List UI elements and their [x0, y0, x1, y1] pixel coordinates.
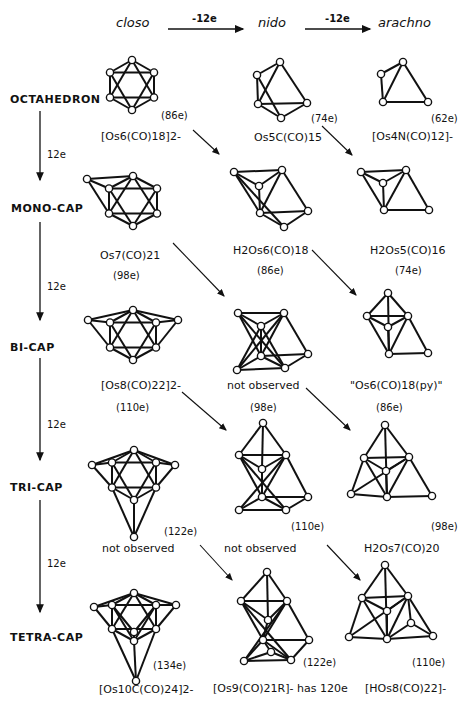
row-label-bi-cap: BI-CAP [10, 341, 55, 354]
formula-label: [Os10C(CO)24]2- [99, 683, 194, 696]
transition-label-1: -12e [192, 13, 217, 24]
electron-count: (110e) [412, 657, 445, 668]
electron-count: (98e) [113, 270, 140, 281]
formula-label: H2Os7(CO)20 [364, 542, 440, 555]
electron-count: (134e) [153, 660, 186, 671]
formula-label: Os7(CO)21 [100, 249, 160, 262]
step-label: 12e [47, 419, 66, 430]
row-label-octahedron: OCTAHEDRON [10, 93, 100, 106]
electron-count: (98e) [431, 521, 458, 532]
electron-count: (74e) [395, 265, 422, 276]
cluster-diagram: closo nido arachno -12e -12e OCTAHEDRON … [0, 0, 471, 708]
electron-count: (86e) [161, 110, 188, 121]
electron-count: (86e) [376, 402, 403, 413]
formula-label: not observed [102, 542, 175, 555]
electron-count: (122e) [303, 657, 336, 668]
formula-label: Os5C(CO)15 [254, 131, 322, 144]
step-label: 12e [47, 149, 66, 160]
row-label-tetra-cap: TETRA-CAP [10, 631, 83, 644]
formula-label: [Os4N(CO)12]- [372, 130, 453, 143]
row-label-tri-cap: TRI-CAP [10, 481, 63, 494]
cluster-polyhedra [83, 56, 436, 684]
electron-count: (110e) [116, 402, 149, 413]
formula-label: [Os9(CO)21R]- has 120e [213, 682, 348, 695]
electron-count: (62e) [431, 113, 458, 124]
electron-count: (110e) [291, 521, 324, 532]
header-closo: closo [116, 15, 149, 30]
electron-count: (86e) [257, 265, 284, 276]
column-headers: closo nido arachno -12e -12e [116, 13, 431, 30]
step-label: 12e [47, 558, 66, 569]
formula-label: "Os6(CO)18(py)" [350, 379, 443, 392]
formula-label: [Os8(CO)22]2- [101, 379, 181, 392]
formula-label: H2Os5(CO)16 [370, 244, 446, 257]
formula-label: [HOs8(CO)22]- [365, 682, 446, 695]
electron-count: (98e) [250, 402, 277, 413]
electron-count: (122e) [164, 526, 197, 537]
header-nido: nido [258, 15, 286, 30]
formula-label: H2Os6(CO)18 [233, 244, 309, 257]
header-arachno: arachno [378, 15, 431, 30]
transition-label-2: -12e [325, 13, 350, 24]
formula-label: not observed [224, 542, 297, 555]
diagonal-arrows [173, 126, 360, 580]
step-label: 12e [47, 281, 66, 292]
electron-count: (74e) [311, 113, 338, 124]
row-label-mono-cap: MONO-CAP [11, 202, 83, 215]
formula-label: not observed [227, 379, 300, 392]
formula-label: [Os6(CO)18]2- [101, 130, 181, 143]
